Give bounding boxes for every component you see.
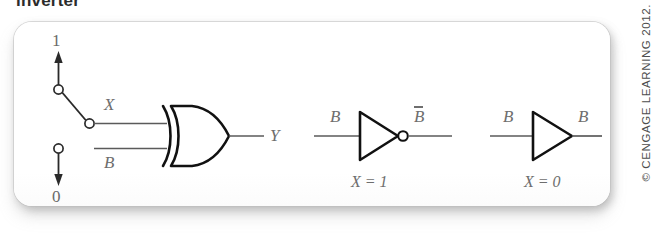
buffer-triangle [533,112,572,160]
inverter-output-label: B [414,106,424,125]
input-label-b: B [104,154,114,171]
inverter-triangle [360,112,398,160]
switch-low-arrow-head [54,174,62,186]
buffer-input-label: B [503,108,513,125]
inverter-condition-label: X = 1 [351,174,388,190]
switch-blade [62,93,86,121]
xor-back-arc-outer [163,106,171,166]
xor-gate [163,106,229,166]
switch-high-arrow-head [54,51,62,63]
circuit-diagram [0,0,657,239]
switch-contact-throw [85,119,94,128]
inverter-bubble-icon [398,131,408,141]
switch-contact-high [54,85,63,94]
switch-assembly [54,51,94,186]
xor-gate-body [171,106,229,166]
switch-contact-low [54,144,63,153]
inverter-input-label: B [330,108,340,125]
buffer-output-label: B [578,108,588,125]
switch-low-label: 0 [52,188,61,205]
copyright-notice: © CENGAGE LEARNING 2012. [637,4,655,236]
figure-root: inverter [0,0,657,239]
switch-high-label: 1 [52,32,61,49]
buffer-condition-label: X = 0 [524,174,561,190]
inverter-output-overbar: B [414,106,424,125]
output-label-y: Y [270,127,279,144]
copyright-text: © CENGAGE LEARNING 2012. [640,4,652,182]
control-label-x: X [104,96,114,113]
